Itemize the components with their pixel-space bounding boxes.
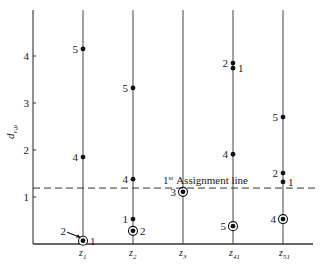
column-z2: z25412 xyxy=(123,10,146,261)
data-point xyxy=(81,238,86,243)
data-point xyxy=(281,180,286,185)
data-point xyxy=(281,217,286,222)
x-category-label: z3 xyxy=(178,247,187,261)
assignment-line-label: 1stAssignment line xyxy=(163,174,248,186)
point-label: 2 xyxy=(140,225,146,237)
axes: 1234dν,μ xyxy=(4,10,313,244)
data-point xyxy=(231,66,236,71)
data-point xyxy=(231,61,236,66)
data-point xyxy=(131,177,136,182)
point-label: 5 xyxy=(73,43,79,55)
x-category-label: z1 xyxy=(78,247,86,261)
data-point xyxy=(231,152,236,157)
data-point xyxy=(281,115,286,120)
column-z51: z515214 xyxy=(271,10,294,261)
data-point xyxy=(281,171,286,176)
point-label: 2 xyxy=(223,57,229,69)
data-point xyxy=(81,155,86,160)
point-label: 5 xyxy=(273,111,279,123)
point-label: 5 xyxy=(221,220,227,232)
point-label: 4 xyxy=(73,151,79,163)
point-label: 4 xyxy=(271,213,277,225)
y-axis-label: dν,μ xyxy=(4,125,19,139)
arrow-head-icon xyxy=(76,234,81,238)
data-point xyxy=(181,189,186,194)
x-category-label: z2 xyxy=(128,247,137,261)
point-label: 2 xyxy=(61,225,67,237)
point-label: 1 xyxy=(123,213,129,225)
point-label: 1 xyxy=(238,62,244,74)
x-category-label: z51 xyxy=(278,247,290,261)
columns: z15412z25412z33z412145z515214 xyxy=(61,10,294,261)
column-z3: z33 xyxy=(171,10,188,261)
data-point xyxy=(131,228,136,233)
assignment-diagram: 1234dν,μ z15412z25412z33z412145z515214 1… xyxy=(0,0,323,265)
column-z1: z15412 xyxy=(61,10,96,261)
y-tick-label: 2 xyxy=(24,144,30,156)
data-point xyxy=(131,217,136,222)
data-point xyxy=(131,86,136,91)
point-label: 2 xyxy=(273,167,279,179)
point-label: 5 xyxy=(123,82,129,94)
point-label: 4 xyxy=(123,173,129,185)
data-point xyxy=(231,224,236,229)
x-category-label: z41 xyxy=(228,247,240,261)
point-label: 4 xyxy=(223,148,229,160)
y-tick-label: 3 xyxy=(24,97,30,109)
data-point xyxy=(81,47,86,52)
point-label: 1 xyxy=(90,235,96,247)
column-z41: z412145 xyxy=(221,10,244,261)
y-tick-label: 1 xyxy=(24,191,30,203)
point-label: 1 xyxy=(288,176,294,188)
y-tick-label: 4 xyxy=(24,50,30,62)
